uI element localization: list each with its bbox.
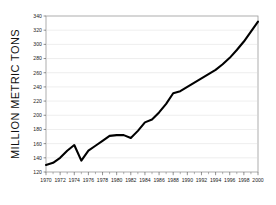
x-tick-label: 1982 [125, 177, 136, 183]
y-tick-label: 220 [33, 98, 42, 104]
x-tick-label: 1976 [83, 177, 94, 183]
x-tick-label: 1972 [54, 177, 65, 183]
y-tick-label: 320 [33, 27, 42, 33]
line-chart-figure: 120140160180200220240260280300320340 197… [0, 0, 276, 205]
x-tick-label: 1998 [238, 177, 249, 183]
x-tick-label: 1974 [69, 177, 80, 183]
x-tick-label: 1984 [139, 177, 150, 183]
y-tick-label: 160 [33, 141, 42, 147]
y-tick-label: 280 [33, 55, 42, 61]
y-tick-label: 180 [33, 126, 42, 132]
y-tick-label: 340 [33, 13, 42, 19]
chart-svg: 120140160180200220240260280300320340 197… [0, 0, 276, 205]
x-tick-label: 1996 [224, 177, 235, 183]
x-axis-ticks-group [46, 172, 258, 175]
plot-frame [46, 16, 258, 172]
x-tick-label: 1970 [40, 177, 51, 183]
x-tick-label: 2000 [252, 177, 263, 183]
y-axis-tick-labels-group: 120140160180200220240260280300320340 [33, 13, 42, 175]
x-tick-label: 1992 [196, 177, 207, 183]
x-tick-label: 1986 [153, 177, 164, 183]
y-tick-label: 140 [33, 155, 42, 161]
x-tick-label: 1990 [182, 177, 193, 183]
x-axis-tick-labels-group: 1970197219741976197819801982198419861988… [40, 177, 263, 183]
y-axis-title: MILLION METRIC TONS [9, 29, 21, 159]
x-tick-label: 1980 [111, 177, 122, 183]
x-tick-label: 1978 [97, 177, 108, 183]
y-tick-label: 240 [33, 84, 42, 90]
gridlines-group [47, 30, 257, 158]
y-tick-label: 200 [33, 112, 42, 118]
x-tick-label: 1988 [168, 177, 179, 183]
x-tick-label: 1994 [210, 177, 221, 183]
y-tick-label: 120 [33, 169, 42, 175]
y-tick-label: 300 [33, 41, 42, 47]
y-tick-label: 260 [33, 70, 42, 76]
chart-page: 120140160180200220240260280300320340 197… [0, 0, 276, 205]
